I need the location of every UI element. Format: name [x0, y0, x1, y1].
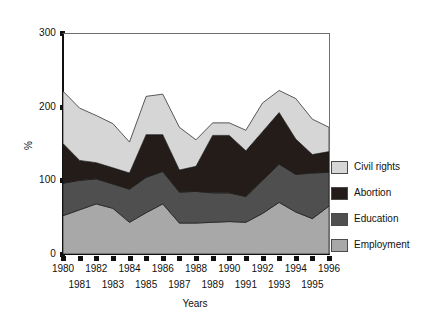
x-tick-label-1985: 1985 — [129, 279, 163, 290]
legend-label: Education — [354, 214, 398, 224]
x-tick-label-1983: 1983 — [96, 279, 130, 290]
x-tick-label-1993: 1993 — [262, 279, 296, 290]
legend-label: Civil rights — [354, 162, 400, 172]
x-tick-mark-1982 — [94, 256, 99, 261]
legend-swatch-icon — [331, 161, 348, 174]
x-tick-label-1988: 1988 — [179, 263, 213, 274]
legend-item-civil-rights[interactable]: Civil rights — [331, 160, 421, 174]
x-tick-mark-1980 — [61, 256, 66, 261]
x-tick-label-1991: 1991 — [229, 279, 263, 290]
x-tick-label-1990: 1990 — [212, 263, 246, 274]
x-tick-label-1989: 1989 — [196, 279, 230, 290]
x-tick-label-1995: 1995 — [295, 279, 329, 290]
x-tick-mark-1990 — [227, 256, 232, 261]
x-tick-mark-1981 — [78, 256, 83, 261]
x-tick-label-1996: 1996 — [312, 263, 346, 274]
x-tick-mark-1988 — [194, 256, 199, 261]
legend-swatch-icon — [331, 187, 348, 200]
x-tick-mark-1985 — [144, 256, 149, 261]
legend-label: Abortion — [354, 188, 391, 198]
legend-label: Employment — [354, 240, 410, 250]
x-tick-mark-1987 — [177, 256, 182, 261]
x-tick-mark-1989 — [211, 256, 216, 261]
y-tick-label-200: 200 — [22, 102, 56, 112]
x-tick-label-1982: 1982 — [79, 263, 113, 274]
x-tick-label-1986: 1986 — [146, 263, 180, 274]
x-tick-label-1992: 1992 — [246, 263, 280, 274]
y-tick-label-100: 100 — [22, 175, 56, 185]
legend-item-employment[interactable]: Employment — [331, 238, 421, 252]
x-axis-title: Years — [0, 298, 390, 309]
legend-swatch-icon — [331, 239, 348, 252]
x-tick-mark-1995 — [310, 256, 315, 261]
x-tick-label-1981: 1981 — [63, 279, 97, 290]
x-tick-mark-1994 — [294, 256, 299, 261]
x-tick-mark-1983 — [111, 256, 116, 261]
x-tick-label-1980: 1980 — [46, 263, 80, 274]
y-axis-title: % — [23, 131, 34, 161]
x-tick-label-1984: 1984 — [113, 263, 147, 274]
y-tick-label-300: 300 — [22, 28, 56, 38]
chart-legend: Civil rightsAbortionEducationEmployment — [331, 160, 421, 264]
legend-item-education[interactable]: Education — [331, 212, 421, 226]
legend-swatch-icon — [331, 213, 348, 226]
x-tick-mark-1992 — [261, 256, 266, 261]
x-tick-mark-1986 — [161, 256, 166, 261]
x-tick-label-1994: 1994 — [279, 263, 313, 274]
x-tick-mark-1984 — [128, 256, 133, 261]
x-tick-mark-1991 — [244, 256, 249, 261]
x-tick-mark-1993 — [277, 256, 282, 261]
stacked-area-chart: % 3002001000 198019811982198319841985198… — [0, 0, 421, 327]
x-tick-label-1987: 1987 — [162, 279, 196, 290]
stacked-area-series-group — [63, 33, 329, 254]
legend-item-abortion[interactable]: Abortion — [331, 186, 421, 200]
y-tick-label-0: 0 — [22, 249, 56, 259]
